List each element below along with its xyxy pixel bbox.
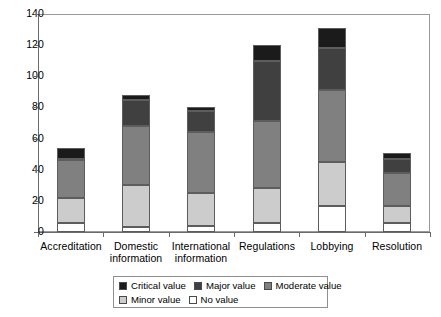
bar-segment-minor-value [318, 162, 346, 206]
x-axis-tick-mark-5 [365, 233, 366, 237]
x-axis-tick-mark-6 [430, 233, 431, 237]
legend-label: Major value [206, 281, 256, 291]
legend-swatch-icon [119, 296, 127, 304]
x-axis-tick-mark-3 [234, 233, 235, 237]
legend-label: No value [201, 295, 239, 305]
bar-segment-critical-value [57, 148, 85, 159]
bar-segment-major-value [57, 159, 85, 161]
bar-segment-major-value [122, 100, 150, 126]
y-axis-tick-mark-100 [34, 76, 38, 77]
x-axis-tick-mark-0 [38, 233, 39, 237]
legend-swatch-icon [119, 282, 127, 290]
y-axis-tick-mark-20 [34, 201, 38, 202]
y-axis-tick-label-20: 20 [0, 195, 44, 205]
bar-segment-no-value [383, 223, 411, 232]
legend-item-minor-value[interactable]: Minor value [119, 295, 181, 305]
plot-area [38, 14, 430, 232]
bar-segment-major-value [383, 159, 411, 173]
legend-row-2: Minor valueNo value [119, 293, 323, 307]
x-axis-tick-mark-1 [103, 233, 104, 237]
y-axis-tick-mark-120 [34, 45, 38, 46]
legend-item-critical-value[interactable]: Critical value [119, 281, 186, 291]
y-axis-tick-mark-60 [34, 139, 38, 140]
y-axis-tick-label-140: 140 [0, 8, 44, 18]
x-axis-tick-mark-2 [169, 233, 170, 237]
bar-regulations [253, 14, 281, 232]
legend-swatch-icon [189, 296, 197, 304]
bar-segment-critical-value [253, 45, 281, 61]
y-axis-tick-label-60: 60 [0, 133, 44, 143]
bar-segment-major-value [187, 111, 215, 133]
y-axis-tick-mark-80 [34, 107, 38, 108]
bar-segment-moderate-value [253, 121, 281, 188]
legend-label: Minor value [131, 295, 181, 305]
bar-lobbying [318, 14, 346, 232]
category-label-line: information [153, 252, 249, 264]
legend-swatch-icon [264, 282, 272, 290]
bar-segment-no-value [187, 226, 215, 232]
bar-segment-critical-value [383, 153, 411, 159]
legend-item-no-value[interactable]: No value [189, 295, 239, 305]
bar-international-information [187, 14, 215, 232]
legend-row-1: Critical valueMajor valueModerate value [119, 279, 323, 293]
legend-item-major-value[interactable]: Major value [194, 281, 256, 291]
legend-label: Moderate value [276, 281, 342, 291]
x-axis-tick-mark-4 [299, 233, 300, 237]
bar-segment-no-value [318, 206, 346, 232]
y-axis-tick-label-40: 40 [0, 164, 44, 174]
bar-segment-moderate-value [122, 126, 150, 185]
category-label-line: Resolution [349, 240, 441, 252]
bar-segment-moderate-value [318, 90, 346, 162]
bar-segment-major-value [253, 61, 281, 122]
bar-segment-moderate-value [383, 173, 411, 206]
bar-segment-minor-value [253, 188, 281, 222]
bar-resolution [383, 14, 411, 232]
bar-segment-minor-value [383, 206, 411, 223]
bar-segment-no-value [57, 223, 85, 232]
bar-segment-critical-value [318, 28, 346, 48]
legend-item-moderate-value[interactable]: Moderate value [264, 281, 342, 291]
legend: Critical valueMajor valueModerate value … [113, 276, 328, 308]
bar-segment-no-value [122, 227, 150, 232]
x-axis-category-label-resolution: Resolution [349, 240, 441, 252]
bar-accreditation [57, 14, 85, 232]
legend-swatch-icon [194, 282, 202, 290]
bar-segment-no-value [253, 223, 281, 232]
stacked-bar-chart: 020406080100120140 AccreditationDomestic… [0, 0, 441, 317]
bar-segment-minor-value [187, 193, 215, 226]
legend-label: Critical value [131, 281, 186, 291]
bar-segment-minor-value [57, 198, 85, 223]
bar-segment-moderate-value [187, 132, 215, 193]
bar-segment-minor-value [122, 185, 150, 227]
bar-segment-moderate-value [57, 159, 85, 198]
y-axis-tick-mark-40 [34, 170, 38, 171]
bar-segment-critical-value [187, 107, 215, 110]
bar-segment-major-value [318, 48, 346, 90]
bar-domestic-information [122, 14, 150, 232]
y-axis-tick-mark-140 [34, 14, 38, 15]
bar-segment-critical-value [122, 95, 150, 100]
